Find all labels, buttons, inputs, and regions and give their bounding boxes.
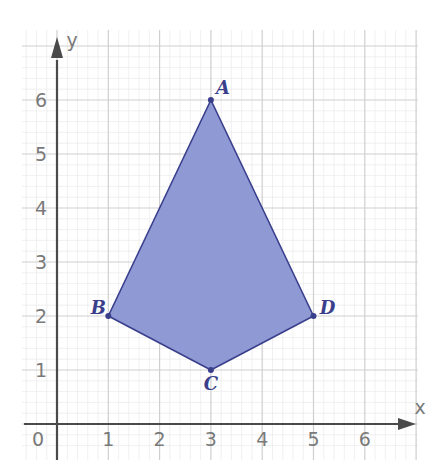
x-axis-label: x: [414, 396, 425, 418]
y-tick-label: 4: [35, 197, 47, 219]
origin-label: 0: [32, 428, 44, 450]
y-tick-label: 3: [35, 251, 47, 273]
vertex-point-d: [311, 313, 317, 319]
y-tick-label: 5: [35, 143, 47, 165]
vertex-label-c: C: [204, 373, 219, 394]
x-tick-label: 1: [102, 428, 114, 450]
x-tick-label: 5: [307, 428, 319, 450]
vertex-label-b: B: [90, 297, 106, 318]
shape-layer: [105, 97, 316, 373]
x-tick-label: 3: [205, 428, 217, 450]
x-tick-label: 6: [359, 428, 371, 450]
vertex-label-d: D: [319, 297, 336, 318]
y-tick-label: 6: [35, 89, 47, 111]
vertex-point-b: [105, 313, 111, 319]
vertex-label-a: A: [214, 77, 230, 98]
y-axis-label: y: [66, 29, 77, 51]
y-axis-arrow-icon: [51, 37, 63, 58]
vertex-point-a: [208, 97, 214, 103]
x-tick-label: 2: [154, 428, 166, 450]
y-tick-label: 1: [35, 359, 47, 381]
x-tick-label: 4: [256, 428, 268, 450]
x-axis-arrow-icon: [398, 418, 416, 430]
coordinate-plot: 1234561234560xyADCB: [0, 0, 446, 463]
y-tick-label: 2: [35, 305, 47, 327]
